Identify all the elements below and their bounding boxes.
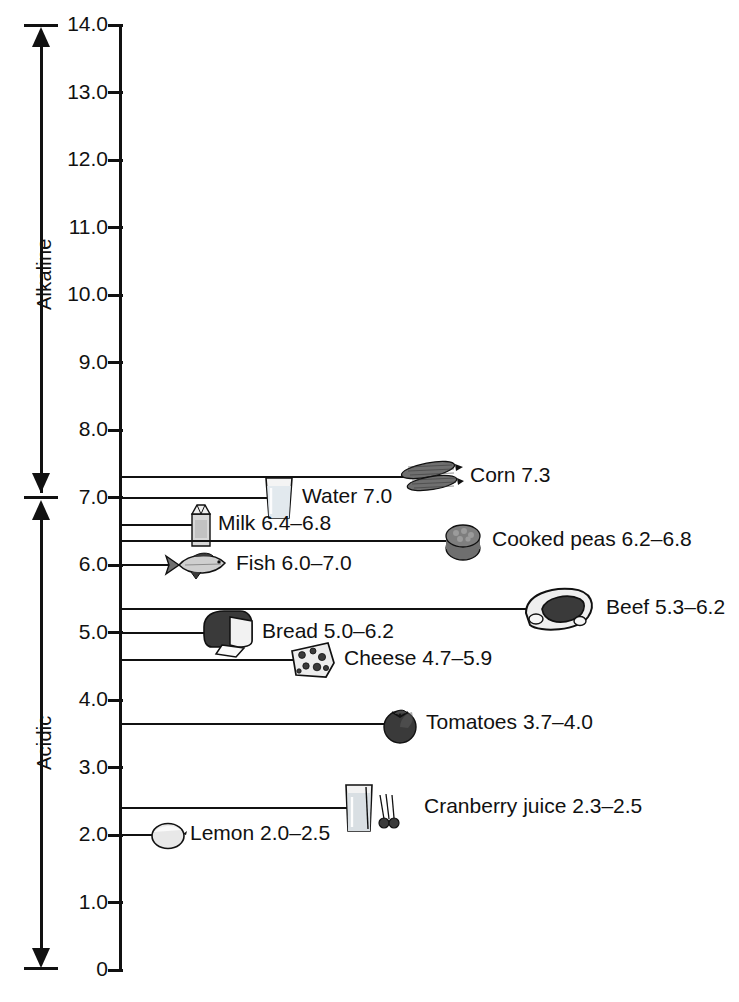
leader-line-water	[120, 497, 272, 499]
axis-tick-label: 9.0	[50, 350, 108, 374]
axis-tick	[108, 294, 123, 297]
ph-scale-figure: Alkaline Acidic 14.013.012.011.010.09.08…	[0, 0, 739, 1002]
axis-tick-label: 11.0	[50, 215, 108, 239]
axis-tick-label: 0	[50, 957, 108, 981]
acidic-arrowhead	[32, 948, 50, 968]
fish-icon	[163, 548, 231, 582]
axis-tick-label: 3.0	[50, 755, 108, 779]
item-label-beef: Beef 5.3–6.2	[606, 595, 725, 619]
axis-tick-label: 1.0	[50, 890, 108, 914]
beef-steak-icon	[516, 583, 600, 635]
item-label-cranberry-juice: Cranberry juice 2.3–2.5	[424, 794, 642, 818]
axis-tick	[108, 766, 123, 769]
axis-tick-label: 6.0	[50, 552, 108, 576]
axis-tick	[108, 91, 123, 94]
corn-icon	[398, 457, 464, 497]
item-label-water: Water 7.0	[302, 484, 392, 508]
acidic-arrowhead-top	[32, 500, 50, 520]
axis-tick	[108, 226, 123, 229]
axis-tick-label: 5.0	[50, 620, 108, 644]
leader-line-beef	[120, 608, 541, 610]
item-label-lemon: Lemon 2.0–2.5	[190, 821, 330, 845]
axis-tick	[108, 159, 123, 162]
axis-tick-label: 10.0	[50, 282, 108, 306]
item-label-corn: Corn 7.3	[470, 463, 551, 487]
alkaline-arrowhead-bottom	[32, 473, 50, 493]
leader-line-milk	[120, 524, 196, 526]
axis-tick-label: 14.0	[50, 12, 108, 36]
item-label-cooked-peas: Cooked peas 6.2–6.8	[492, 527, 692, 551]
axis-tick	[108, 699, 123, 702]
leader-line-cheese	[120, 659, 302, 661]
alkaline-arrowhead	[32, 27, 50, 47]
leader-line-cooked-peas	[120, 540, 453, 542]
axis-tick	[108, 24, 123, 27]
axis-tick-label: 8.0	[50, 417, 108, 441]
axis-tick-label: 7.0	[50, 485, 108, 509]
axis-tick	[108, 361, 123, 364]
item-label-fish: Fish 6.0–7.0	[236, 551, 352, 575]
leader-line-tomatoes	[120, 723, 391, 725]
axis-tick-label: 4.0	[50, 687, 108, 711]
item-label-tomatoes: Tomatoes 3.7–4.0	[426, 710, 593, 734]
cheese-wedge-icon	[286, 637, 338, 683]
item-label-cheese: Cheese 4.7–5.9	[344, 646, 492, 670]
peas-bowl-icon	[438, 518, 488, 564]
axis-tick-label: 13.0	[50, 80, 108, 104]
leader-line-cranberry-juice	[120, 807, 360, 809]
axis-tick	[108, 901, 123, 904]
lemon-icon	[148, 818, 188, 852]
tomato-icon	[378, 703, 422, 745]
cranberry-juice-icon	[340, 781, 406, 835]
axis-tick	[108, 969, 123, 972]
axis-tick-label: 2.0	[50, 822, 108, 846]
axis-tick	[108, 429, 123, 432]
axis-tick-label: 12.0	[50, 147, 108, 171]
bread-loaf-icon	[200, 607, 258, 659]
item-label-milk: Milk 6.4–6.8	[218, 511, 331, 535]
